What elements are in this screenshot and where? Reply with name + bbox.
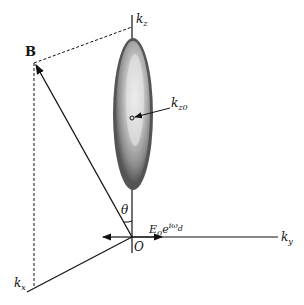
theta-label: θ — [121, 203, 128, 217]
origin-label: O — [134, 240, 144, 254]
kx-label: kx — [14, 276, 26, 292]
dashed-projection-top — [34, 27, 132, 63]
field-label: E0eiωd — [149, 221, 183, 238]
theta-arc — [124, 221, 132, 222]
kz-label: kz — [136, 12, 148, 28]
b-label: B — [25, 44, 36, 59]
kx-axis — [27, 237, 132, 292]
ky-label: ky — [281, 230, 293, 246]
diagram-canvas — [0, 0, 304, 305]
kz0-label: kz0 — [171, 96, 188, 112]
